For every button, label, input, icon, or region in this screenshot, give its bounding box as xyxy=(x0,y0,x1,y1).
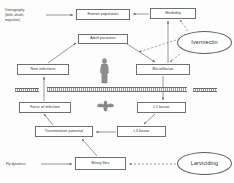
divider-band-center xyxy=(47,87,187,92)
node-l1-larvae[interactable]: L1 larvae xyxy=(137,102,186,113)
edge-transmission-potential-to-force-of-infection xyxy=(44,114,53,125)
node-adult-parasites[interactable]: Adult parasites xyxy=(78,34,128,44)
transmission-model-diagram: Demography (birth, death, migration) Hum… xyxy=(0,0,234,183)
node-l3-larvae[interactable]: L3 larvae xyxy=(117,126,166,137)
node-larviciding[interactable]: Larviciding xyxy=(177,152,232,175)
edge-ivermectin-to-morbidity xyxy=(180,20,188,31)
edge-new-infections-to-adult-parasites xyxy=(48,43,76,63)
node-human-population[interactable]: Human population xyxy=(76,9,130,20)
node-new-infections[interactable]: New infections xyxy=(17,64,69,75)
fly-dynamics-label: Fly dynamics xyxy=(6,160,40,169)
edge-l1-to-l3-larvae xyxy=(144,114,155,124)
node-biting-flies[interactable]: Biting flies xyxy=(75,157,126,170)
human-figure-icon xyxy=(99,58,110,85)
blackfly-figure-icon xyxy=(97,100,114,114)
edge-ivermectin-to-microfilariae xyxy=(170,54,180,62)
node-ivermectin[interactable]: Ivermectin xyxy=(177,31,232,54)
edge-adult-parasites-to-microfilariae xyxy=(127,44,155,62)
divider-band-right xyxy=(193,88,217,92)
edge-ivermectin-to-adult-parasites xyxy=(139,40,176,52)
divider-band-left xyxy=(15,88,39,92)
node-force-of-infection[interactable]: Force of infection xyxy=(19,102,71,113)
node-microfilariae[interactable]: Microfilariae xyxy=(136,64,190,75)
node-transmission-potential[interactable]: Transmission potential xyxy=(35,126,93,137)
edge-biting-flies-to-transmission-potential xyxy=(82,139,97,156)
node-morbidity[interactable]: Morbidity xyxy=(150,8,196,19)
demography-label: Demography (birth, death, migration) xyxy=(5,5,45,26)
